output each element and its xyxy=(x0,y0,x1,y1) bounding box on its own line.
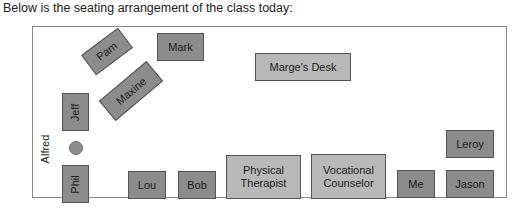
seat-lou: Lou xyxy=(128,171,166,199)
seat-label: Mark xyxy=(168,41,192,54)
seat-physical-therapist: Physical Therapist xyxy=(226,155,301,199)
seat-label: Vocational Counselor xyxy=(316,164,381,190)
seat-label: Pam xyxy=(94,40,120,64)
seat-label-alfred: Alfred xyxy=(39,135,51,164)
seat-mark: Mark xyxy=(157,33,204,61)
seat-jason: Jason xyxy=(446,170,494,198)
seat-alfred xyxy=(69,141,83,155)
seat-me: Me xyxy=(397,170,435,198)
seat-label: Phil xyxy=(69,175,82,193)
seat-marges-desk: Marge's Desk xyxy=(255,53,351,81)
seat-label: Lou xyxy=(138,179,156,192)
seat-label: Jeff xyxy=(69,103,82,121)
seat-jeff: Jeff xyxy=(62,93,89,131)
seat-vocational-counselor: Vocational Counselor xyxy=(311,154,386,199)
seat-leroy: Leroy xyxy=(446,130,494,158)
seat-label: Physical Therapist xyxy=(233,164,294,190)
seat-label: Me xyxy=(408,178,423,191)
seat-label: Leroy xyxy=(456,138,484,151)
seat-label: Jason xyxy=(455,178,484,191)
seat-label: Bob xyxy=(187,179,207,192)
caption-text: Below is the seating arrangement of the … xyxy=(3,1,293,15)
seat-phil: Phil xyxy=(62,165,89,203)
seat-bob: Bob xyxy=(178,171,216,199)
seat-label: Marge's Desk xyxy=(270,61,337,74)
